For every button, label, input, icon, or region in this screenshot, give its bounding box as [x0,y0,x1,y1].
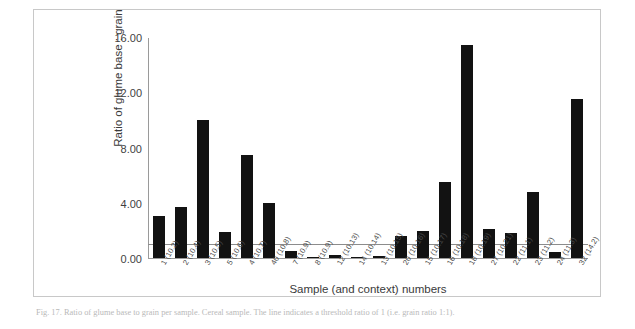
bar-slot [434,38,456,258]
bar-slot [302,38,324,258]
x-tick-slot: 27 (10.21) [478,260,500,302]
bar-slot [148,38,170,258]
x-tick-slot: 16 (10.18) [434,260,456,302]
bar-slot [280,38,302,258]
x-tick-slot: 14 (10.14) [346,260,368,302]
bar-slot [346,38,368,258]
bar [175,207,187,258]
bar-slot [390,38,412,258]
bar-slot [214,38,236,258]
x-tick-slot: 22 (11.1) [500,260,522,302]
bar-slot [500,38,522,258]
x-tick-slot: 24 (11.3) [544,260,566,302]
x-tick-slot: 20 (10.16) [390,260,412,302]
y-axis-tick-label: 12.00 [96,88,142,99]
bar-slot [192,38,214,258]
bar [461,45,473,258]
bar [571,99,583,258]
bar [263,203,275,258]
bar-slot [324,38,346,258]
x-tick-slot: 7 (10.9) [280,260,302,302]
x-tick-slot: 2 (10.4) [170,260,192,302]
plot-area [148,38,588,259]
x-axis-title: Sample (and context) numbers [148,283,588,295]
y-axis-tick-label: 0.00 [96,254,142,265]
bar-series [148,38,588,258]
y-axis-tick-label: 8.00 [96,144,142,155]
bar-slot [544,38,566,258]
bar-slot [566,38,588,258]
x-tick-slot: 15 (10.17) [412,260,434,302]
x-tick-slot: 40 (10.8) [258,260,280,302]
x-tick-slot: 23 (11.2) [522,260,544,302]
x-tick-slot: 32 (14.2) [566,260,588,302]
x-tick-slot: 8 (10.9) [302,260,324,302]
bar-slot [170,38,192,258]
y-axis-tick-labels: 0.004.008.0012.0016.00 [92,38,142,259]
x-tick-slot: 13 (10.15) [368,260,390,302]
bar [197,120,209,258]
bar [153,216,165,258]
x-tick-slot: 12 (10.13) [324,260,346,302]
bar-slot [412,38,434,258]
bar-slot [258,38,280,258]
bar-slot [522,38,544,258]
x-tick-slot: 3 (10.5) [192,260,214,302]
y-axis-tick-label: 4.00 [96,199,142,210]
x-tick-slot: 18 (10.19) [456,260,478,302]
bar-slot [236,38,258,258]
y-axis-tick-label: 16.00 [96,33,142,44]
x-tick-slot: 5 (10.6) [214,260,236,302]
bar-slot [478,38,500,258]
x-tick-slot: 1 (10.2) [148,260,170,302]
x-tick-slot: 4 (10.7) [236,260,258,302]
bar-slot [456,38,478,258]
bar-slot [368,38,390,258]
figure-caption: Fig. 17. Ratio of glume base to grain pe… [36,308,626,318]
figure-frame: Ratio of glume base : grain 0.004.008.00… [33,9,601,297]
x-axis-tick-labels: 1 (10.2)2 (10.4)3 (10.5)5 (10.6)4 (10.7)… [148,260,588,302]
